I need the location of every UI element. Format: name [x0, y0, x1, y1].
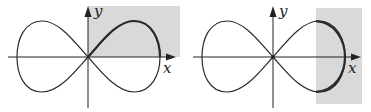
y-axis-label: y [278, 2, 288, 20]
panel-left: x y [0, 0, 185, 112]
y-axis-arrow-icon [270, 6, 277, 17]
lemniscate-diagram-left: x y [0, 0, 185, 112]
panel-right: x y [185, 0, 371, 112]
x-axis-label: x [163, 59, 172, 77]
y-axis-label: y [93, 2, 103, 20]
x-axis-label: x [348, 59, 357, 77]
lemniscate-diagram-right: x y [185, 0, 371, 112]
origin-dot [271, 55, 275, 59]
